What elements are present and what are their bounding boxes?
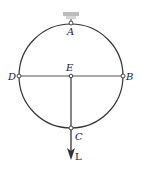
label-c: C bbox=[75, 131, 83, 142]
pin-b bbox=[121, 74, 125, 78]
pin-d bbox=[17, 74, 21, 78]
fixed-support bbox=[63, 12, 79, 22]
ring-diagram: A D B E C L bbox=[0, 0, 142, 172]
label-d: D bbox=[7, 71, 16, 82]
pin-e bbox=[69, 74, 73, 78]
pin-a bbox=[69, 21, 73, 25]
label-a: A bbox=[66, 26, 74, 37]
label-b: B bbox=[125, 71, 133, 82]
label-load: L bbox=[75, 151, 82, 162]
pin-c bbox=[69, 126, 73, 130]
label-e: E bbox=[65, 62, 74, 73]
